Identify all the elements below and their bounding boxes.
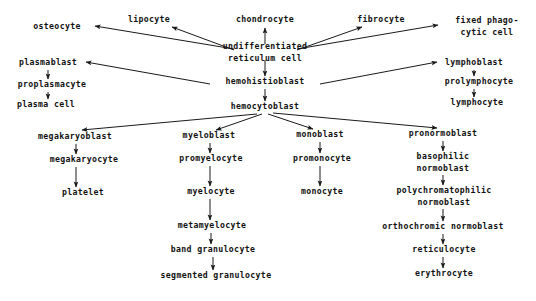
- node-lymphoblast: lymphoblast: [445, 57, 503, 69]
- node-label: monoblast: [296, 129, 344, 139]
- node-promonocyte: promonocyte: [293, 153, 351, 165]
- edge-hemocytoblast-to-myeloblast: [216, 114, 262, 130]
- node-label: monocyte: [301, 186, 343, 196]
- node-hemocytoblast: hemocytoblast: [231, 101, 300, 113]
- node-lipocyte: lipocyte: [128, 14, 170, 26]
- node-metamyelocyte: metamyelocyte: [178, 220, 247, 232]
- node-lymphocyte: lymphocyte: [451, 97, 504, 109]
- node-label: hemocytoblast: [231, 101, 300, 111]
- node-basophilic-normoblast: basophilicnormoblast: [417, 151, 470, 174]
- node-label: plasmablast: [19, 57, 77, 67]
- node-fixed-phagocytic-cell: fixed phago-cytic cell: [455, 15, 518, 38]
- node-label: segmented granulocyte: [161, 270, 272, 280]
- node-label: megakaryoblast: [38, 131, 112, 141]
- edge-undifferentiated-reticulum-cell-to-osteocyte: [95, 26, 234, 49]
- node-platelet: platelet: [62, 187, 104, 199]
- node-label: megakaryocyte: [50, 154, 119, 164]
- node-proplasmacyte: proplasmacyte: [18, 79, 87, 91]
- node-label: undifferentiated: [223, 41, 307, 51]
- node-label: myeloblast: [183, 130, 236, 140]
- node-monoblast: monoblast: [296, 129, 344, 141]
- node-chondrocyte: chondrocyte: [236, 14, 294, 26]
- node-label: metamyelocyte: [178, 220, 247, 230]
- node-label: prolymphocyte: [445, 76, 514, 86]
- edge-hemocytoblast-to-pronormoblast: [273, 113, 437, 128]
- node-label-line2: normoblast: [396, 196, 491, 208]
- node-undifferentiated-reticulum-cell: undifferentiatedreticulum cell: [223, 41, 307, 64]
- node-label: erythrocyte: [415, 268, 473, 278]
- edge-hemohistioblast-to-lymphoblast: [320, 62, 437, 84]
- node-label: myelocyte: [187, 186, 235, 196]
- node-label: promyelocyte: [179, 153, 242, 163]
- node-label: polychromatophilic: [396, 185, 491, 195]
- node-label: platelet: [62, 187, 104, 197]
- node-prolymphocyte: prolymphocyte: [445, 76, 514, 88]
- node-label: basophilic: [417, 151, 470, 161]
- node-polychromatophilic-normoblast: polychromatophilicnormoblast: [396, 185, 491, 208]
- node-label: pronormoblast: [409, 128, 478, 138]
- node-label-line2: normoblast: [417, 162, 470, 174]
- node-band-granulocyte: band granulocyte: [171, 244, 255, 256]
- node-plasmablast: plasmablast: [19, 57, 77, 69]
- node-label-line2: reticulum cell: [223, 52, 307, 64]
- node-label: orthochromic normoblast: [382, 221, 503, 231]
- node-label: lymphocyte: [451, 97, 504, 107]
- node-label: fibrocyte: [357, 14, 405, 24]
- node-hemohistioblast: hemohistioblast: [225, 76, 304, 88]
- node-label: chondrocyte: [236, 14, 294, 24]
- edge-hemocytoblast-to-megakaryoblast: [82, 114, 257, 130]
- node-label: proplasmacyte: [18, 79, 87, 89]
- node-monocyte: monocyte: [301, 186, 343, 198]
- node-label: reticulocyte: [412, 244, 475, 254]
- node-label: promonocyte: [293, 153, 351, 163]
- node-myelocyte: myelocyte: [187, 186, 235, 198]
- node-orthochromic-normoblast: orthochromic normoblast: [382, 221, 503, 233]
- node-pronormoblast: pronormoblast: [409, 128, 478, 140]
- node-label: hemohistioblast: [225, 76, 304, 86]
- node-label: lipocyte: [128, 14, 170, 24]
- node-label: lymphoblast: [445, 57, 503, 67]
- node-erythrocyte: erythrocyte: [415, 268, 473, 280]
- node-label: plasma cell: [17, 99, 75, 109]
- node-megakaryoblast: megakaryoblast: [38, 131, 112, 143]
- node-label: osteocyte: [33, 21, 81, 31]
- node-label: fixed phago-: [455, 15, 518, 25]
- node-plasma-cell: plasma cell: [17, 99, 75, 111]
- node-label: band granulocyte: [171, 244, 255, 254]
- edge-hemohistioblast-to-plasmablast: [86, 62, 210, 84]
- edge-undifferentiated-reticulum-cell-to-fixed-phagocytic-cell: [297, 25, 438, 49]
- node-promyelocyte: promyelocyte: [179, 153, 242, 165]
- node-reticulocyte: reticulocyte: [412, 244, 475, 256]
- node-segmented-granulocyte: segmented granulocyte: [161, 270, 272, 282]
- hematopoiesis-diagram: osteocytelipocytechondrocytefibrocytefix…: [0, 0, 536, 301]
- node-fibrocyte: fibrocyte: [357, 14, 405, 26]
- node-label-line2: cytic cell: [455, 26, 518, 38]
- node-megakaryocyte: megakaryocyte: [50, 154, 119, 166]
- edge-hemocytoblast-to-monoblast: [268, 114, 313, 129]
- node-osteocyte: osteocyte: [33, 21, 81, 33]
- node-myeloblast: myeloblast: [183, 130, 236, 142]
